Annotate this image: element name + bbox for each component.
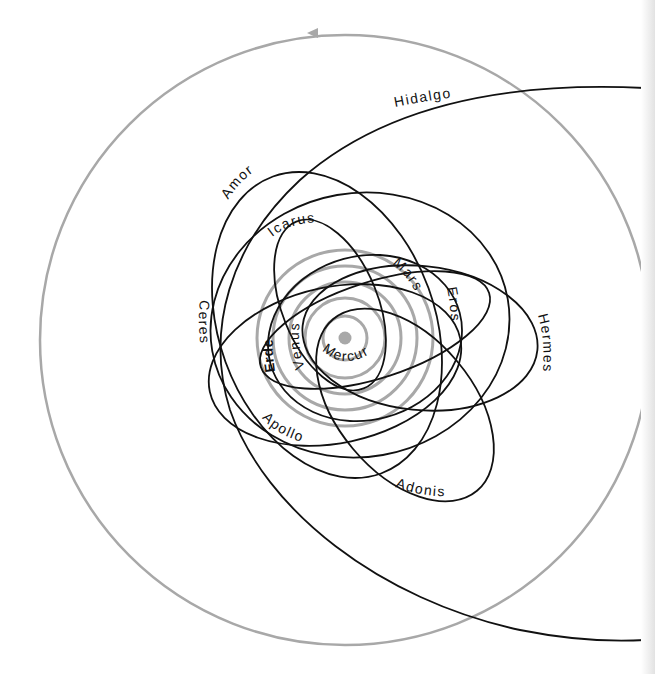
label-erde: Erde <box>260 339 278 374</box>
label-hermes: Hermes <box>535 312 556 374</box>
label-icarus: Icarus <box>264 209 316 239</box>
label-ceres: Ceres <box>196 300 214 345</box>
sun-icon <box>339 332 352 345</box>
asteroid-orbit-diagram: Hidalgo Amor Icarus Ceres Eros Hermes Ap… <box>0 0 655 674</box>
label-eros: Eros <box>444 285 464 322</box>
asteroid-orbit-hidalgo <box>221 87 645 641</box>
page-edge-shadow <box>641 0 655 674</box>
label-adonis: Adonis <box>394 475 446 500</box>
label-amor: Amor <box>217 161 256 202</box>
